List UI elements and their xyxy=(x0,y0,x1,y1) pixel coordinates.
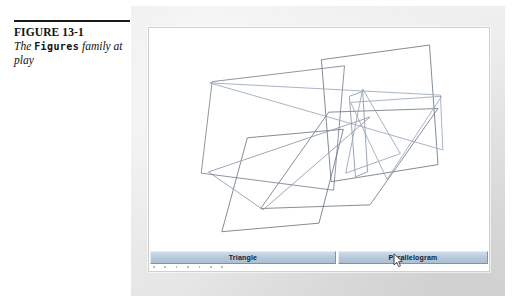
shape-parallelogram-narrow-vertical xyxy=(349,91,367,176)
shapes-svg xyxy=(149,28,489,250)
parallelogram-button[interactable]: Parallelogram xyxy=(338,251,488,264)
figure-caption-block: FIGURE 13-1 The Figures family at play xyxy=(14,20,134,67)
figure-number: FIGURE 13-1 xyxy=(14,26,134,39)
caption-code-word: Figures xyxy=(34,41,79,52)
shape-triangle-wide-flat xyxy=(210,83,443,150)
status-grip-dots xyxy=(153,265,223,269)
grip-dot xyxy=(187,266,189,269)
triangle-button[interactable]: Triangle xyxy=(150,251,336,264)
grip-dot xyxy=(210,266,212,269)
grip-dot xyxy=(221,266,223,269)
grip-dot xyxy=(153,266,155,269)
drawing-canvas[interactable] xyxy=(149,28,489,250)
figure-caption-text: The Figures family at play xyxy=(14,40,134,67)
shape-parallelogram-center-lower xyxy=(222,129,343,231)
grip-dot xyxy=(164,266,166,269)
button-bar: Triangle Parallelogram xyxy=(149,250,489,271)
grip-dot xyxy=(176,266,178,269)
shape-triangle-long-left xyxy=(209,117,371,210)
scanned-page-background: Triangle Parallelogram xyxy=(131,6,505,296)
caption-prefix: The xyxy=(14,40,34,52)
grip-dot xyxy=(199,266,201,269)
application-window: Triangle Parallelogram xyxy=(148,27,490,272)
caption-rule-divider xyxy=(14,20,130,22)
